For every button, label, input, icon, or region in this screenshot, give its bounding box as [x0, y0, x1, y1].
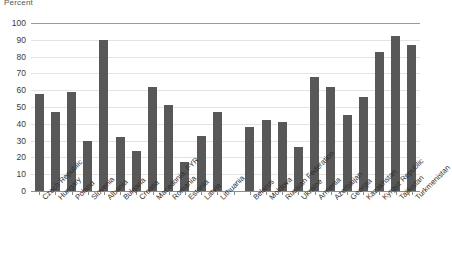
plot-area	[31, 23, 420, 191]
y-tick-label-40: 40	[17, 119, 26, 129]
bar	[99, 40, 108, 191]
bar	[245, 127, 254, 191]
chart-title: Percent	[4, 0, 33, 7]
y-tick-label-10: 10	[17, 169, 26, 179]
y-tick-label-0: 0	[21, 186, 26, 196]
y-tick-label-70: 70	[17, 68, 26, 78]
y-tick-label-50: 50	[17, 102, 26, 112]
bar	[213, 112, 222, 191]
bar	[375, 52, 384, 191]
bar	[326, 87, 335, 191]
y-tick-label-90: 90	[17, 35, 26, 45]
y-tick-label-60: 60	[17, 85, 26, 95]
y-tick-label-100: 100	[12, 18, 26, 28]
y-axis: 0102030405060708090100	[0, 23, 28, 191]
bar	[148, 87, 157, 191]
bars-layer	[31, 23, 420, 191]
y-tick-label-20: 20	[17, 152, 26, 162]
x-axis-labels: Czech RepublicHungaryPolandSloveniaAlban…	[31, 196, 420, 269]
y-tick-label-30: 30	[17, 136, 26, 146]
bar	[35, 94, 44, 191]
y-tick-label-80: 80	[17, 52, 26, 62]
